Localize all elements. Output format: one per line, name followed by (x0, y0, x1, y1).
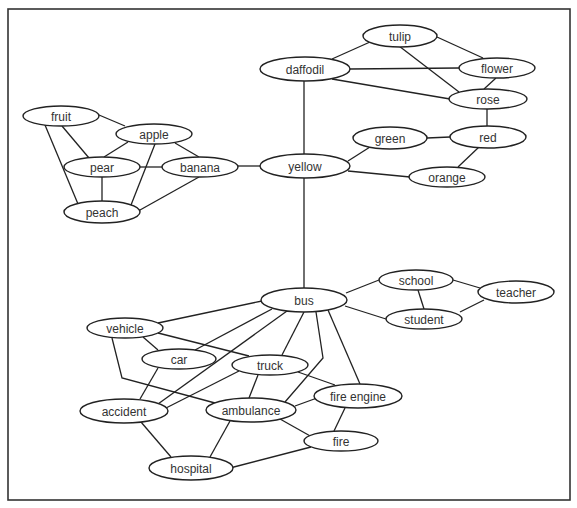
semantic-network-diagram: tulipdaffodilflowerrosegreenredyellowora… (0, 0, 577, 508)
node-pear: pear (64, 157, 140, 177)
node-label: orange (428, 171, 466, 185)
node-label: fire (333, 435, 350, 449)
node-rose: rose (449, 89, 527, 109)
node-school: school (379, 270, 453, 290)
node-label: pear (90, 161, 114, 175)
node-label: rose (476, 93, 500, 107)
node-label: school (399, 274, 434, 288)
node-label: tulip (389, 30, 411, 44)
node-daffodil: daffodil (260, 57, 350, 81)
node-label: green (375, 132, 406, 146)
node-peach: peach (64, 201, 140, 223)
node-accident: accident (80, 399, 168, 423)
node-fruit: fruit (23, 106, 99, 126)
node-yellow: yellow (260, 154, 350, 178)
node-label: red (479, 131, 496, 145)
node-label: car (171, 353, 188, 367)
node-orange: orange (409, 167, 485, 187)
node-label: vehicle (106, 322, 144, 336)
node-car: car (142, 349, 216, 369)
node-label: accident (102, 405, 147, 419)
node-label: fruit (51, 110, 72, 124)
node-bus: bus (261, 288, 347, 312)
node-flower: flower (459, 58, 535, 78)
node-label: ambulance (222, 404, 281, 418)
node-truck: truck (232, 355, 308, 375)
node-fire-engine: fire engine (314, 384, 402, 408)
node-label: peach (86, 206, 119, 220)
node-label: teacher (496, 286, 536, 300)
node-student: student (386, 309, 462, 329)
node-green: green (353, 127, 427, 149)
node-hospital: hospital (149, 456, 233, 480)
node-label: daffodil (286, 63, 324, 77)
node-label: truck (257, 359, 284, 373)
node-fire: fire (304, 431, 378, 451)
node-label: flower (481, 62, 513, 76)
node-apple: apple (116, 124, 192, 144)
node-label: bus (294, 294, 313, 308)
node-label: apple (139, 128, 169, 142)
diagram-frame (8, 9, 570, 500)
node-label: hospital (170, 462, 211, 476)
node-vehicle: vehicle (87, 318, 163, 338)
node-teacher: teacher (478, 281, 554, 303)
node-label: banana (180, 161, 220, 175)
node-label: student (404, 313, 444, 327)
node-tulip: tulip (363, 25, 437, 47)
node-label: fire engine (330, 390, 386, 404)
node-label: yellow (288, 160, 322, 174)
node-ambulance: ambulance (206, 398, 296, 422)
node-red: red (450, 126, 526, 148)
node-banana: banana (162, 157, 238, 177)
